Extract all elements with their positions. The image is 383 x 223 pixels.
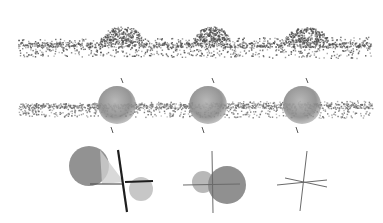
glyph-3 bbox=[277, 151, 327, 211]
axis-3 bbox=[125, 181, 153, 182]
fitted-sphere-3 bbox=[283, 78, 321, 133]
glyph-panel bbox=[0, 138, 383, 223]
fitted-spheres-panel bbox=[0, 72, 383, 138]
orientation-glyphs-plot bbox=[0, 138, 383, 223]
glyph-2 bbox=[183, 151, 246, 213]
axis-3 bbox=[285, 178, 327, 187]
glyph-1 bbox=[69, 146, 153, 212]
axis-1 bbox=[212, 151, 213, 213]
bump-points-1 bbox=[100, 27, 144, 44]
fitted-spheres-plot bbox=[0, 72, 383, 138]
bump-points-2 bbox=[194, 26, 231, 43]
fitted-sphere-1 bbox=[98, 78, 136, 133]
bump-points-3 bbox=[285, 27, 329, 43]
axis-2 bbox=[277, 180, 327, 185]
point-cloud-panel bbox=[0, 0, 383, 72]
fitted-sphere-2 bbox=[189, 78, 227, 133]
lobe-2 bbox=[208, 166, 246, 204]
point-cloud-plot bbox=[0, 0, 383, 72]
